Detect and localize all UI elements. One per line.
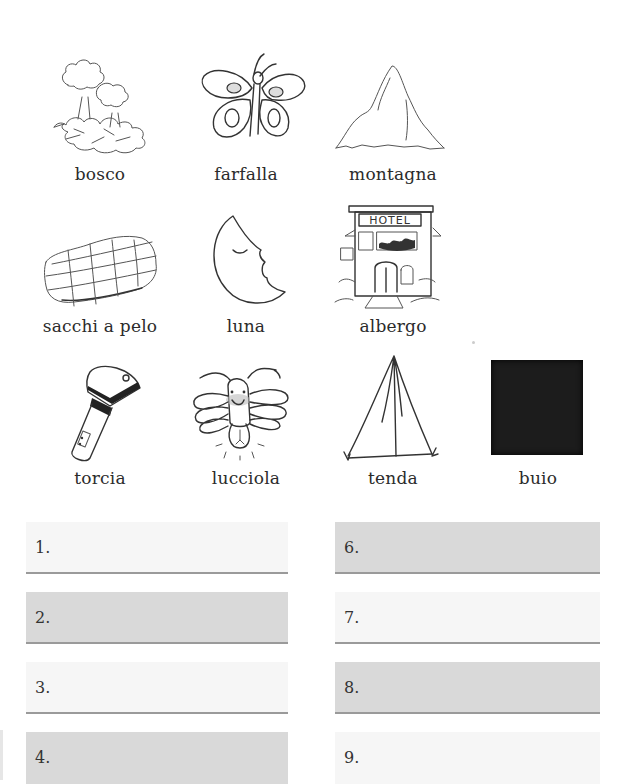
hotel-icon: HOTEL [333,202,441,310]
answer-field-7[interactable]: 7. [335,592,600,644]
vocab-label-buio: buio [519,468,557,488]
hotel-sign-text: HOTEL [369,214,411,227]
answer-field-4[interactable]: 4. [26,732,288,784]
answer-number: 6. [344,538,359,557]
answer-number: 8. [344,678,359,697]
butterfly-icon [196,52,306,152]
answer-number: 9. [344,748,359,767]
answer-number: 4. [35,748,50,767]
answer-field-9[interactable]: 9. [335,732,600,784]
vocab-label-lucciola: lucciola [212,468,280,488]
page-edge-mark [0,730,3,780]
answer-field-8[interactable]: 8. [335,662,600,714]
dark-square-icon [491,360,583,455]
forest-icon [46,55,168,155]
moon-icon [205,210,295,310]
tent-icon [340,352,442,464]
vocab-label-montagna: montagna [349,164,437,184]
answer-number: 7. [344,608,359,627]
vocab-label-bosco: bosco [75,164,126,184]
firefly-icon [190,360,302,460]
vocab-label-albergo: albergo [359,316,426,336]
answer-number: 2. [35,608,50,627]
flashlight-icon [68,362,144,462]
vocab-label-farfalla: farfalla [214,164,278,184]
vocab-label-sacchi-a-pelo: sacchi a pelo [43,316,157,336]
speck-dot [472,341,475,344]
answer-field-1[interactable]: 1. [26,522,288,574]
vocab-label-tenda: tenda [368,468,418,488]
mountain-icon [334,62,446,152]
answer-number: 3. [35,678,50,697]
answer-field-2[interactable]: 2. [26,592,288,644]
answer-number: 1. [35,538,50,557]
vocab-label-luna: luna [227,316,265,336]
vocab-label-torcia: torcia [74,468,126,488]
answer-field-6[interactable]: 6. [335,522,600,574]
answer-field-3[interactable]: 3. [26,662,288,714]
sleeping-bag-icon [42,232,160,312]
